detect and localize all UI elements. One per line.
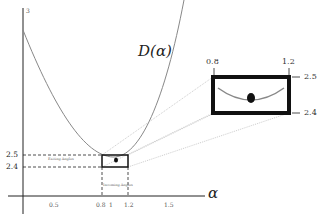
exiting-angles-label: Exiting Angles [48,158,74,162]
y-tick-2-5: 2.5 [6,151,18,159]
y-axis-top-tick: 3 [26,8,30,14]
x-axis-label: α [208,186,218,201]
connector-top-left [102,77,213,155]
connector-bottom-right [128,113,289,167]
x-tick-1-2: 1.2 [124,202,134,208]
inset-label-2-4: 2.4 [304,109,317,117]
inset-label-1-2: 1.2 [282,58,295,66]
inset-label-2-5: 2.5 [304,73,317,81]
connector-bottom-left [102,113,213,167]
y-tick-2-4: 2.4 [6,163,18,171]
minimum-point [114,158,118,163]
curve-label: D(α) [138,44,172,59]
inset-label-0-8: 0.8 [206,58,219,66]
inset-minimum-point [247,93,255,103]
x-tick-1-5: 1.5 [164,202,174,208]
x-tick-0-5: 0.5 [49,202,59,208]
incoming-angles-label: Incoming Angles [103,184,133,188]
diagram-canvas [0,0,321,222]
x-tick-1: 1 [109,202,113,208]
d-alpha-curve [23,0,184,157]
x-tick-0-8: 0.8 [96,202,106,208]
d-alpha-zoom-diagram: 3 D(α) α 2.5 2.4 0.5 0.8 1 1.2 1.5 Exiti… [0,0,321,222]
